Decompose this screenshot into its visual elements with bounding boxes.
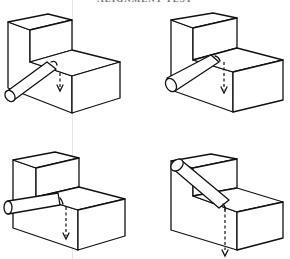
block-diagram-3 (0, 130, 145, 259)
block-diagram-4 (145, 130, 290, 259)
panel-bottom-right (145, 130, 290, 259)
panel-top-left (0, 0, 145, 130)
block-diagram-2 (145, 0, 290, 130)
panel-top-right (145, 0, 290, 130)
panel-bottom-left (0, 130, 145, 259)
block-diagram-1 (0, 0, 145, 130)
